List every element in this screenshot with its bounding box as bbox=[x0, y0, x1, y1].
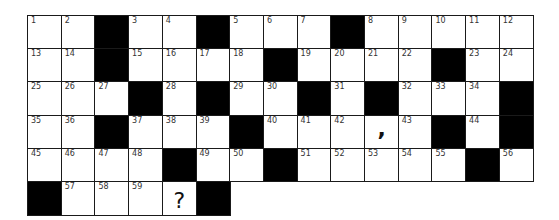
clue-number: 25 bbox=[31, 83, 41, 91]
grid-cell[interactable]: 7 bbox=[297, 15, 332, 50]
question-cell[interactable]: ? bbox=[162, 181, 197, 216]
black-square bbox=[94, 48, 129, 83]
grid-cell[interactable]: 13 bbox=[27, 48, 62, 83]
clue-number: 22 bbox=[402, 50, 412, 58]
clue-number: 33 bbox=[435, 83, 445, 91]
grid-cell[interactable]: 14 bbox=[61, 48, 96, 83]
grid-cell[interactable]: 27 bbox=[94, 81, 129, 116]
grid-cell[interactable]: 48 bbox=[128, 148, 163, 183]
grid-cell[interactable]: 10 bbox=[431, 15, 466, 50]
black-square bbox=[431, 48, 466, 83]
grid-cell[interactable]: 37 bbox=[128, 115, 163, 150]
grid-cell[interactable]: 28 bbox=[162, 81, 197, 116]
clue-number: 36 bbox=[65, 117, 75, 125]
clue-number: 18 bbox=[233, 50, 243, 58]
grid-cell[interactable]: 57 bbox=[61, 181, 96, 216]
grid-cell[interactable]: 45 bbox=[27, 148, 62, 183]
grid-cell[interactable]: 54 bbox=[398, 148, 433, 183]
grid-cell[interactable]: 44 bbox=[465, 115, 500, 150]
clue-number: 53 bbox=[368, 150, 378, 158]
grid-cell[interactable]: 39 bbox=[196, 115, 231, 150]
grid-cell[interactable]: 11 bbox=[465, 15, 500, 50]
grid-cell[interactable]: 59 bbox=[128, 181, 163, 216]
comma-cell[interactable]: , bbox=[364, 115, 399, 150]
grid-cell[interactable]: 4 bbox=[162, 15, 197, 50]
clue-number: 9 bbox=[402, 17, 407, 25]
clue-number: 48 bbox=[132, 150, 142, 158]
clue-number: 17 bbox=[200, 50, 210, 58]
grid-cell[interactable]: 55 bbox=[431, 148, 466, 183]
grid-cell[interactable]: 9 bbox=[398, 15, 433, 50]
grid-cell[interactable]: 52 bbox=[330, 148, 365, 183]
clue-number: 44 bbox=[469, 117, 479, 125]
grid-cell[interactable]: 53 bbox=[364, 148, 399, 183]
grid-cell[interactable]: 29 bbox=[229, 81, 264, 116]
grid-cell[interactable]: 41 bbox=[297, 115, 332, 150]
clue-number: 19 bbox=[301, 50, 311, 58]
grid-cell[interactable]: 8 bbox=[364, 15, 399, 50]
black-square bbox=[94, 115, 129, 150]
grid-cell[interactable]: 25 bbox=[27, 81, 62, 116]
grid-cell[interactable]: 40 bbox=[263, 115, 298, 150]
grid-cell[interactable]: 6 bbox=[263, 15, 298, 50]
grid-cell[interactable]: 16 bbox=[162, 48, 197, 83]
grid-cell[interactable]: 20 bbox=[330, 48, 365, 83]
clue-number: 15 bbox=[132, 50, 142, 58]
grid-cell[interactable]: 35 bbox=[27, 115, 62, 150]
clue-number: 54 bbox=[402, 150, 412, 158]
grid-cell[interactable]: 49 bbox=[196, 148, 231, 183]
clue-number: 45 bbox=[31, 150, 41, 158]
grid-cell[interactable]: 24 bbox=[499, 48, 534, 83]
clue-number: 46 bbox=[65, 150, 75, 158]
clue-number: 37 bbox=[132, 117, 142, 125]
clue-number: 39 bbox=[200, 117, 210, 125]
grid-cell[interactable]: 56 bbox=[499, 148, 534, 183]
grid-cell[interactable]: 51 bbox=[297, 148, 332, 183]
grid-cell[interactable]: 12 bbox=[499, 15, 534, 50]
clue-number: 32 bbox=[402, 83, 412, 91]
grid-cell[interactable]: 5 bbox=[229, 15, 264, 50]
grid-cell[interactable]: 1 bbox=[27, 15, 62, 50]
clue-number: 43 bbox=[402, 117, 412, 125]
grid-cell[interactable]: 15 bbox=[128, 48, 163, 83]
grid-cell[interactable]: 23 bbox=[465, 48, 500, 83]
grid-cell[interactable]: 22 bbox=[398, 48, 433, 83]
grid-cell[interactable]: 38 bbox=[162, 115, 197, 150]
clue-number: 56 bbox=[503, 150, 513, 158]
grid-cell[interactable]: 26 bbox=[61, 81, 96, 116]
grid-cell[interactable]: 46 bbox=[61, 148, 96, 183]
grid-cell[interactable]: 17 bbox=[196, 48, 231, 83]
clue-number: 58 bbox=[98, 183, 108, 191]
grid-cell[interactable]: 33 bbox=[431, 81, 466, 116]
grid-cell[interactable]: 32 bbox=[398, 81, 433, 116]
grid-cell[interactable]: 47 bbox=[94, 148, 129, 183]
grid-cell[interactable]: 50 bbox=[229, 148, 264, 183]
grid-cell[interactable]: 31 bbox=[330, 81, 365, 116]
clue-number: 1 bbox=[31, 17, 36, 25]
grid-cell[interactable]: 34 bbox=[465, 81, 500, 116]
clue-number: 7 bbox=[301, 17, 306, 25]
black-square bbox=[330, 15, 365, 50]
clue-number: 31 bbox=[334, 83, 344, 91]
grid-cell[interactable]: 43 bbox=[398, 115, 433, 150]
clue-number: 20 bbox=[334, 50, 344, 58]
black-square bbox=[465, 148, 500, 183]
grid-cell[interactable]: 19 bbox=[297, 48, 332, 83]
black-square bbox=[94, 15, 129, 50]
grid-cell[interactable]: 58 bbox=[94, 181, 129, 216]
grid-cell[interactable]: 2 bbox=[61, 15, 96, 50]
grid-cell[interactable]: 30 bbox=[263, 81, 298, 116]
black-square bbox=[263, 48, 298, 83]
grid-cell[interactable]: 42 bbox=[330, 115, 365, 150]
clue-number: 13 bbox=[31, 50, 41, 58]
grid-cell[interactable]: 21 bbox=[364, 48, 399, 83]
black-square bbox=[27, 181, 62, 216]
grid-cell[interactable]: 36 bbox=[61, 115, 96, 150]
black-square bbox=[431, 115, 466, 150]
black-square bbox=[196, 81, 231, 116]
grid-cell[interactable]: 18 bbox=[229, 48, 264, 83]
clue-number: 49 bbox=[200, 150, 210, 158]
clue-number: 29 bbox=[233, 83, 243, 91]
black-square bbox=[364, 81, 399, 116]
grid-cell[interactable]: 3 bbox=[128, 15, 163, 50]
